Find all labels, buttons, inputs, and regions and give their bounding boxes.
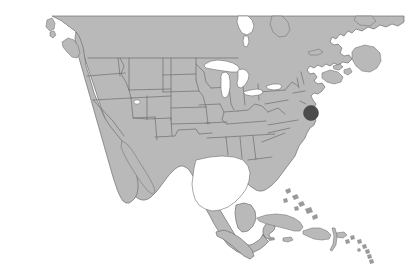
haida-gwaii-south — [50, 31, 56, 38]
cape-breton — [344, 68, 352, 75]
yucatan-peninsula — [235, 203, 256, 232]
nova-scotia — [322, 70, 343, 84]
lake-michigan — [221, 72, 230, 98]
bahamas-islet-5 — [283, 198, 288, 203]
newfoundland — [352, 45, 381, 72]
map-figure — [0, 0, 410, 279]
prince-edward-island — [333, 64, 343, 70]
location-marker[interactable] — [304, 106, 319, 121]
gulf-of-mexico — [192, 156, 250, 211]
bahamas-islet-1 — [285, 188, 291, 194]
north-america-map — [0, 0, 410, 279]
great-salt-lake — [134, 100, 140, 104]
